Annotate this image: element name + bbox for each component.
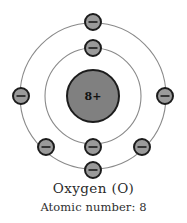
- electron-outer-left: [13, 88, 29, 104]
- caption-block: Oxygen (O) Atomic number: 8: [0, 180, 187, 215]
- electron-outer-lower-left: [38, 139, 54, 155]
- electron-outer-lower-right: [134, 139, 150, 155]
- nucleus-charge-label: 8+: [85, 90, 102, 103]
- atom-diagram: 8+: [0, 0, 187, 223]
- nucleus: 8+: [67, 70, 119, 122]
- electron-outer-top: [85, 14, 101, 30]
- atomic-number-label: Atomic number: 8: [0, 199, 187, 215]
- electron-outer-right: [157, 88, 173, 104]
- element-name-label: Oxygen (O): [0, 180, 187, 197]
- electron-inner-top: [85, 40, 101, 56]
- bohr-model-svg: 8+: [0, 0, 187, 180]
- electron-inner-bottom: [85, 139, 101, 155]
- electron-outer-bottom: [85, 162, 101, 178]
